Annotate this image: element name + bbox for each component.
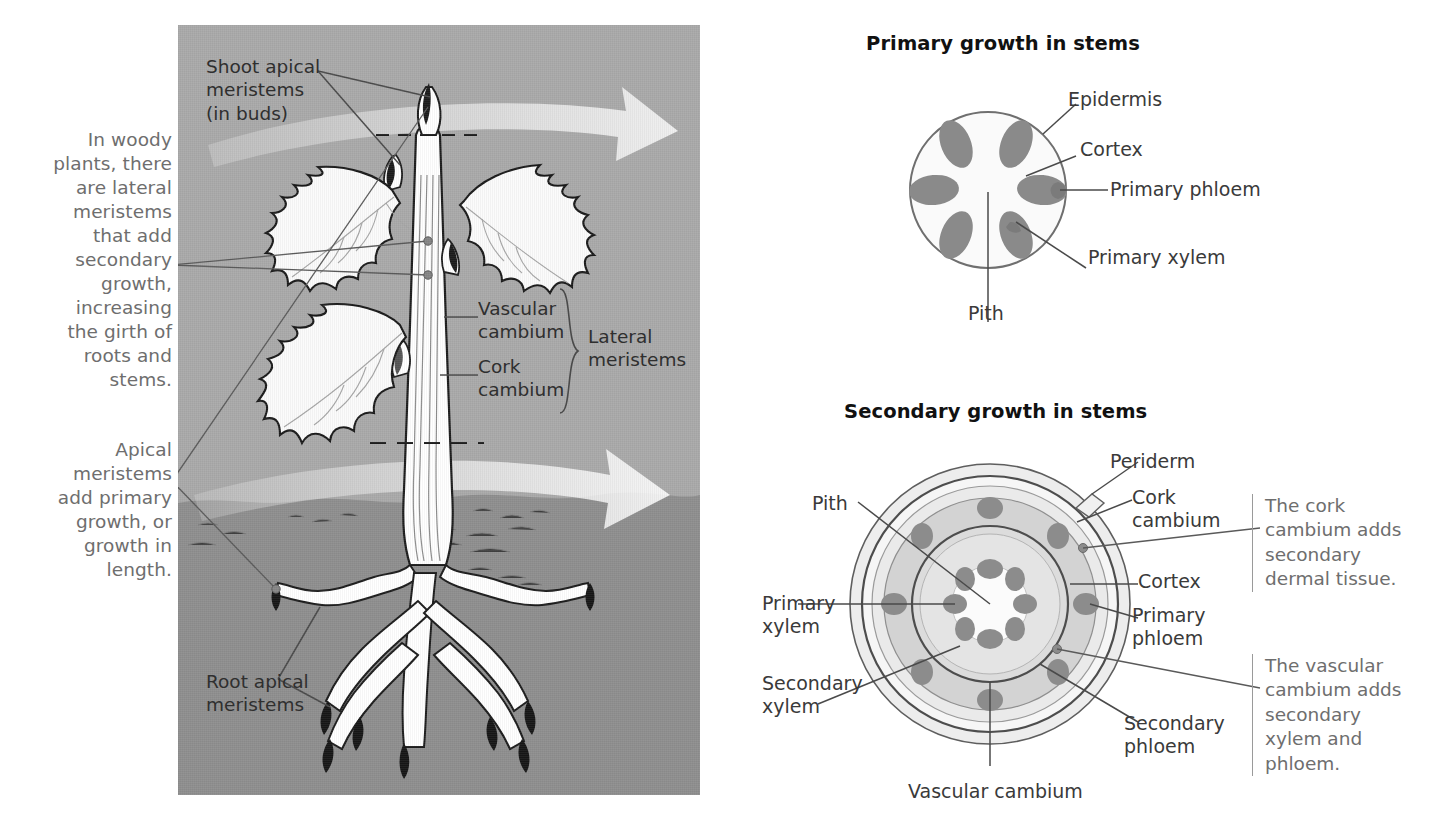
- secondary-label-secondary-xylem: Secondary xylem: [762, 672, 863, 718]
- secondary-label-primary-xylem: Primary xylem: [762, 592, 835, 638]
- primary-growth-diagram: [830, 72, 1310, 362]
- plant-illustration-panel: Shoot apical meristems (in buds) Vascula…: [178, 25, 700, 795]
- label-root-apical-meristems: Root apical meristems: [206, 670, 309, 717]
- secondary-label-secondary-phloem: Secondary phloem: [1124, 712, 1225, 758]
- label-cork-cambium: Cork cambium: [478, 355, 564, 402]
- secondary-label-cortex: Cortex: [1138, 570, 1201, 593]
- secondary-label-pith: Pith: [812, 492, 848, 515]
- lateral-point-upper: [424, 237, 432, 245]
- leaf-upper-left: [266, 167, 410, 291]
- leaf-upper-right: [460, 165, 594, 293]
- secondary-growth-title: Secondary growth in stems: [844, 400, 1147, 423]
- lateral-meristems-brace: [556, 287, 586, 415]
- lateral-point-lower: [424, 271, 432, 279]
- primary-label-primary-phloem: Primary phloem: [1110, 178, 1261, 201]
- secondary-label-vascular-cambium: Vascular cambium: [908, 780, 1083, 803]
- secondary-label-cork-cambium: Cork cambium: [1132, 486, 1221, 532]
- label-lateral-meristems: Lateral meristems: [588, 325, 686, 372]
- primary-growth-title: Primary growth in stems: [866, 32, 1140, 55]
- label-vascular-cambium: Vascular cambium: [478, 297, 564, 344]
- stem: [403, 125, 453, 566]
- secondary-label-primary-phloem: Primary phloem: [1132, 604, 1205, 650]
- primary-label-epidermis: Epidermis: [1068, 88, 1162, 111]
- terminal-bud: [418, 83, 441, 135]
- note-lateral-meristems: In woody plants, there are lateral meris…: [6, 128, 184, 393]
- leaf-lower-left: [258, 304, 406, 443]
- figure-canvas: In woody plants, there are lateral meris…: [0, 0, 1441, 822]
- primary-label-cortex: Cortex: [1080, 138, 1143, 161]
- secondary-label-periderm: Periderm: [1110, 450, 1195, 473]
- axillary-bud-lower: [442, 239, 459, 275]
- apical-root-point: [272, 585, 280, 593]
- primary-label-pith: Pith: [968, 302, 1004, 325]
- note-apical-meristems: Apical meristems add primary growth, or …: [6, 438, 184, 582]
- callout-vascular-cambium: The vascular cambium adds secondary xyle…: [1252, 654, 1441, 776]
- callout-cork-cambium: The cork cambium adds secondary dermal t…: [1252, 494, 1441, 592]
- primary-label-primary-xylem: Primary xylem: [1088, 246, 1225, 269]
- label-shoot-apical-meristems: Shoot apical meristems (in buds): [206, 55, 320, 125]
